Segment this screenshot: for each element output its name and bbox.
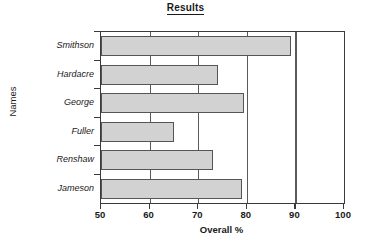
- y-tick-label: Smithson: [28, 40, 94, 50]
- x-tick-label: 60: [129, 209, 169, 220]
- bar: [101, 150, 213, 170]
- x-tick-label: 90: [274, 209, 314, 220]
- chart-title-text: Results: [167, 2, 205, 15]
- y-tick-label: Hardacre: [28, 69, 94, 79]
- x-tick-label: 100: [323, 209, 363, 220]
- bar: [101, 122, 174, 142]
- bar: [101, 65, 218, 85]
- plot-area: [100, 31, 345, 204]
- y-tick-label: Renshaw: [28, 154, 94, 164]
- bar-group: [101, 32, 344, 203]
- bar: [101, 36, 291, 56]
- bar: [101, 179, 242, 199]
- y-tick-label: Fuller: [28, 126, 94, 136]
- bar: [101, 93, 244, 113]
- chart-title: Results: [0, 2, 371, 13]
- y-axis-title: Names: [7, 74, 18, 130]
- y-tick-label: George: [28, 97, 94, 107]
- x-tick-label: 80: [226, 209, 266, 220]
- y-tick-label-group: Smithson Hardacre George Fuller Renshaw …: [28, 31, 94, 202]
- y-tick-label: Jameson: [28, 183, 94, 193]
- x-axis-title: Overall %: [100, 224, 343, 235]
- x-tick-label-group: 5060708090100: [100, 209, 343, 223]
- x-tick-label: 50: [80, 209, 120, 220]
- x-tick-label: 70: [177, 209, 217, 220]
